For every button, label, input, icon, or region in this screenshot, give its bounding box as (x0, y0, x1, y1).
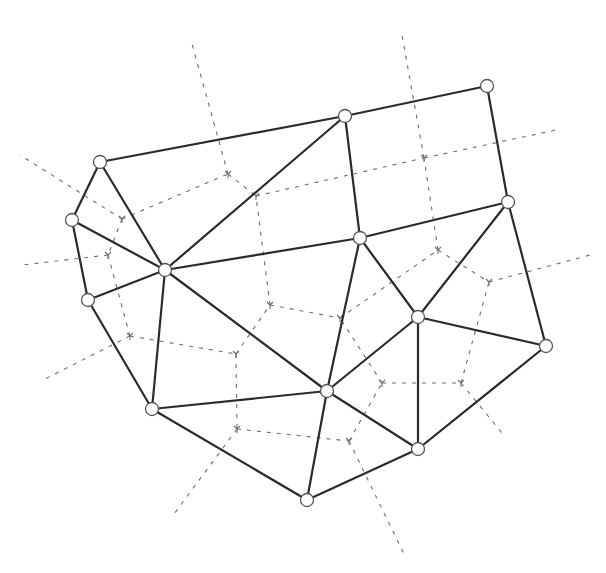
delaunay-edge-IH (360, 202, 508, 238)
voronoi-ray (424, 130, 556, 158)
node-J (412, 311, 425, 324)
voronoi-ray (192, 44, 228, 174)
voronoi-ray (402, 35, 424, 158)
delaunay-edge-CE (88, 300, 152, 409)
node-A (94, 156, 107, 169)
voronoi-edge (228, 174, 256, 196)
voronoi-edge (108, 255, 130, 336)
delaunay-edge-layer (72, 86, 546, 500)
node-H (502, 196, 515, 209)
voronoi-layer (20, 35, 590, 554)
delaunay-edge-HK (508, 202, 546, 346)
node-F (339, 110, 352, 123)
delaunay-edge-AF (100, 116, 345, 162)
voronoi-ray (489, 255, 590, 282)
delaunay-edge-EN (152, 409, 307, 500)
node-M (412, 443, 425, 456)
voronoi-edge (349, 383, 382, 441)
voronoi-ray (20, 155, 122, 219)
delaunay-edge-MN (307, 449, 418, 500)
delaunay-edge-IJ (360, 238, 418, 317)
voronoi-edge (122, 174, 228, 219)
voronoi-ray (349, 441, 404, 554)
delaunay-edge-EL (152, 391, 327, 409)
voronoi-ray (43, 336, 130, 380)
node-N (301, 494, 314, 507)
node-K (540, 340, 553, 353)
voronoi-edge (236, 305, 270, 354)
node-E (146, 403, 159, 416)
voronoi-edge (256, 158, 424, 196)
delaunay-edge-BC (72, 220, 88, 300)
delaunay-edge-DE (152, 270, 165, 409)
delaunay-edge-FI (345, 116, 360, 238)
delaunay-edge-CD (88, 270, 165, 300)
node-layer (66, 80, 553, 507)
delaunay-edge-DF (165, 116, 345, 270)
delaunay-edge-JK (418, 317, 546, 346)
delaunay-edge-LN (307, 391, 327, 500)
delaunay-voronoi-diagram (0, 0, 606, 573)
node-C (82, 294, 95, 307)
node-D (159, 264, 172, 277)
voronoi-ray (174, 429, 237, 514)
voronoi-vertex-mark (486, 279, 492, 286)
voronoi-vertex-mark (233, 351, 239, 358)
delaunay-edge-KM (418, 346, 546, 449)
voronoi-edge (236, 354, 237, 429)
node-L (321, 385, 334, 398)
voronoi-edge (256, 196, 270, 305)
node-G (481, 80, 494, 93)
delaunay-edge-LM (327, 391, 418, 449)
voronoi-ray (22, 255, 108, 265)
delaunay-edge-FG (345, 86, 487, 116)
delaunay-edge-GH (487, 86, 508, 202)
voronoi-vertex-mark (119, 216, 125, 223)
voronoi-edge (270, 305, 340, 318)
delaunay-edge-HJ (418, 202, 508, 317)
voronoi-edge (237, 429, 349, 441)
voronoi-edge (130, 336, 236, 354)
delaunay-edge-DL (165, 270, 327, 391)
delaunay-edge-AB (72, 162, 100, 220)
voronoi-edge (424, 158, 438, 250)
node-B (66, 214, 79, 227)
voronoi-edge (108, 219, 122, 255)
voronoi-vertex-mark (346, 438, 352, 445)
node-I (354, 232, 367, 245)
voronoi-edge (438, 250, 489, 282)
voronoi-ray (461, 383, 502, 433)
